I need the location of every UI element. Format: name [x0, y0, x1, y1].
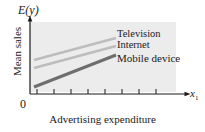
y-axis: [28, 16, 33, 95]
x-axis-variable: x1: [190, 88, 198, 102]
origin-label: 0: [20, 98, 26, 110]
x-axis-ticks: [37, 89, 156, 94]
regression-line-figure: E(y) Mean sales 0 x1 Advertising expendi…: [0, 0, 205, 132]
legend-label-mobile-device: Mobile device: [117, 53, 180, 64]
y-axis-expression: E(y): [18, 4, 39, 16]
x-axis-title: Advertising expenditure: [0, 114, 205, 125]
legend-label-internet: Internet: [117, 40, 150, 51]
y-axis-title: Mean sales: [12, 22, 23, 82]
x-axis-variable-subscript: 1: [195, 94, 199, 102]
series-line-mobile-device: [34, 55, 116, 87]
legend-label-television: Television: [117, 29, 161, 40]
